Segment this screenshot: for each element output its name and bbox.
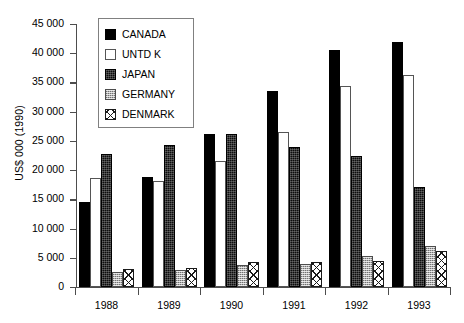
bar-canada-1993 [392,42,403,287]
bar-canada-1992 [329,50,340,287]
legend-item-canada: CANADA [105,24,193,44]
y-axis-tick-label: 35 000 [0,75,64,87]
x-axis-tick-label: 1992 [322,299,392,311]
bar-untd-k-1990 [215,161,226,287]
x-axis-tick [388,288,389,295]
bar-chart: US$ 000 (1990) 45 00040 00035 00030 0002… [0,0,464,323]
bar-group [392,24,447,287]
x-axis-tick-label: 1991 [259,299,329,311]
legend-item-germany: GERMANY [105,84,193,104]
bar-germany-1988 [112,272,123,287]
legend-item-label: JAPAN [122,68,155,80]
x-axis-tick-label: 1988 [72,299,142,311]
bar-group [204,24,259,287]
y-axis-tick-label: 15 000 [0,192,64,204]
x-axis-tick [325,288,326,295]
chart-legend: CANADAUNTD KJAPANGERMANYDENMARK [98,18,194,128]
legend-swatch-icon [105,69,116,80]
bar-denmark-1991 [311,262,322,287]
y-axis-tick-label: 30 000 [0,105,64,117]
bar-group [329,24,384,287]
y-axis-tick-label: 40 000 [0,46,64,58]
y-axis-tick-label: 10 000 [0,222,64,234]
bar-japan-1992 [351,156,362,288]
legend-item-label: UNTD K [122,48,161,60]
bar-japan-1990 [226,134,237,287]
bar-germany-1989 [175,270,186,287]
bar-denmark-1989 [186,268,197,287]
bar-untd-k-1988 [90,178,101,287]
bar-untd-k-1989 [153,181,164,287]
legend-swatch-icon [105,89,116,100]
legend-item-japan: JAPAN [105,64,193,84]
bar-group [267,24,322,287]
bar-japan-1988 [101,154,112,287]
legend-swatch-icon [105,109,116,120]
x-axis-tick [263,288,264,295]
y-axis-tick-label: 20 000 [0,163,64,175]
y-axis-tick-label: 0 [0,280,64,292]
bar-canada-1991 [267,91,278,287]
legend-item-label: GERMANY [122,88,175,100]
bar-denmark-1992 [373,261,384,287]
legend-swatch-icon [105,29,116,40]
bar-germany-1992 [362,256,373,287]
bar-canada-1988 [79,202,90,287]
bar-untd-k-1992 [340,86,351,287]
bar-canada-1989 [142,177,153,287]
legend-item-label: CANADA [122,28,166,40]
bar-germany-1993 [425,246,436,287]
x-axis-tick-label: 1989 [134,299,204,311]
bar-japan-1993 [414,187,425,287]
y-axis-tick-label: 25 000 [0,134,64,146]
x-axis-tick [138,288,139,295]
bar-denmark-1993 [436,251,447,287]
bar-untd-k-1993 [403,75,414,287]
bar-japan-1991 [289,147,300,287]
x-axis-tick-label: 1993 [384,299,454,311]
bar-germany-1990 [237,265,248,287]
bar-japan-1989 [164,145,175,287]
bar-germany-1991 [300,264,311,287]
bar-denmark-1988 [123,269,134,287]
x-axis-tick [75,288,76,295]
bar-denmark-1990 [248,262,259,287]
legend-item-untd-k: UNTD K [105,44,193,64]
bar-untd-k-1991 [278,132,289,287]
x-axis-tick-label: 1990 [197,299,267,311]
y-axis-tick-label: 5 000 [0,251,64,263]
legend-item-denmark: DENMARK [105,104,193,124]
legend-swatch-icon [105,49,116,60]
y-axis-tick-label: 45 000 [0,17,64,29]
legend-item-label: DENMARK [122,108,175,120]
bar-canada-1990 [204,134,215,287]
x-axis-tick [200,288,201,295]
x-axis-tick [450,288,451,295]
